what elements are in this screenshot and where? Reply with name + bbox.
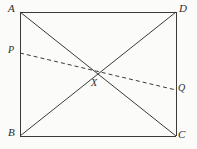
vertex-label-a: A	[8, 3, 15, 14]
point-label-q: Q	[178, 83, 185, 93]
point-label-x: X	[91, 78, 97, 88]
geometry-canvas	[0, 0, 197, 149]
point-label-p: P	[8, 45, 14, 55]
vertex-label-d: D	[179, 3, 187, 14]
vertex-label-c: C	[178, 129, 185, 140]
dashed-segment-pq	[20, 53, 176, 90]
vertex-label-b: B	[8, 127, 15, 138]
geometry-figure: A D B C P Q X	[0, 0, 197, 149]
